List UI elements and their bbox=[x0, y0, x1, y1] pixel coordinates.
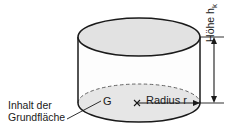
height-label-text: Höhe h bbox=[204, 8, 216, 42]
height-arrow-head-bottom bbox=[211, 96, 217, 103]
base-area-label-line1: Inhalt der bbox=[8, 99, 52, 111]
base-area-label-line2: Grundfläche bbox=[8, 111, 65, 123]
base-area-symbol-label: G bbox=[103, 95, 112, 108]
height-label: Höhe hk bbox=[204, 0, 218, 54]
base-area-label: Inhalt der Grundfläche bbox=[8, 99, 65, 124]
radius-label: Radius r bbox=[146, 94, 187, 107]
diagram-canvas: Inhalt der Grundfläche G Radius r Höhe h… bbox=[0, 0, 233, 140]
cylinder-top-face bbox=[78, 18, 200, 56]
height-label-subscript: k bbox=[210, 4, 219, 8]
